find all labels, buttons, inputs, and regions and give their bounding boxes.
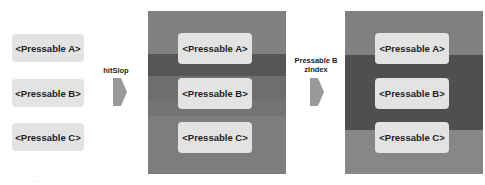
pressable-a[interactable]: <Pressable A> [375,33,449,64]
zindex-label: Pressable B zIndex [290,56,342,74]
arrow-right-icon [113,78,127,106]
pressable-a[interactable]: <Pressable A> [178,33,252,64]
pressable-b[interactable]: <Pressable B> [375,78,449,109]
pressable-c[interactable]: <Pressable C> [375,122,449,153]
arrow-right-icon [310,78,324,106]
pressable-b[interactable]: <Pressable B> [178,78,252,109]
zindex-label-line2: zIndex [304,65,327,74]
pressable-b[interactable]: <Pressable B> [12,79,84,107]
pressable-c[interactable]: <Pressable C> [12,123,84,151]
pressable-c[interactable]: <Pressable C> [178,122,252,153]
hitslop-label: hitSlop [98,66,134,75]
zindex-label-line1: Pressable B [295,56,338,65]
hitslop-panel: <Pressable A> <Pressable B> <Pressable C… [148,11,286,174]
caption: · · ·· ······ · [10,178,48,184]
pressable-a[interactable]: <Pressable A> [12,34,84,62]
zindex-panel: <Pressable A> <Pressable B> <Pressable C… [345,11,483,174]
